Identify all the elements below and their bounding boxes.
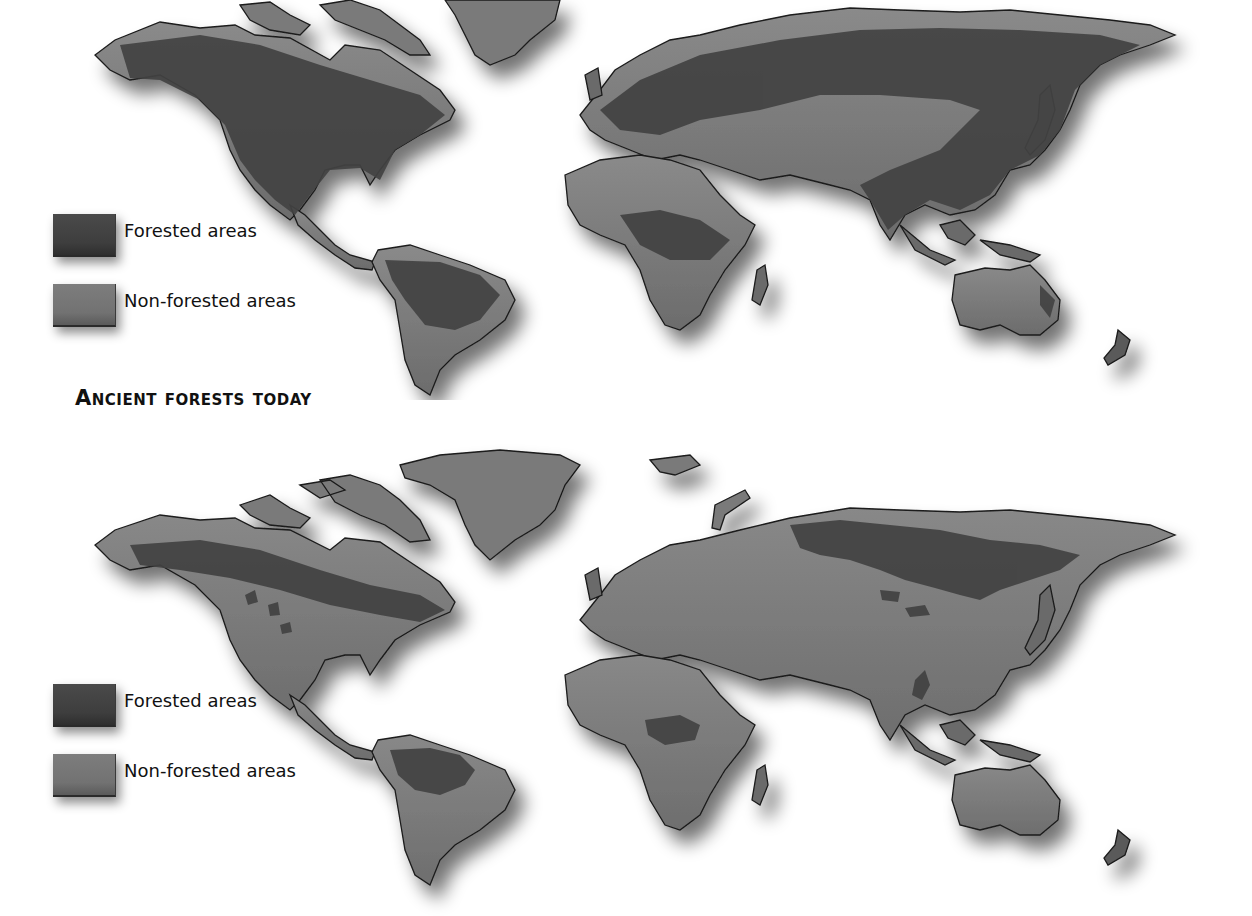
forested-swatch (53, 684, 116, 727)
africa (565, 655, 755, 830)
forested-swatch (53, 214, 116, 257)
greenland (445, 0, 560, 65)
world-map-today (0, 430, 1252, 916)
british-isles (585, 68, 602, 100)
section-title-ancient-forests-today: Ancient forests today (75, 386, 312, 410)
southeast-asia-islands (900, 220, 1040, 265)
legend-label-non-forested: Non-forested areas (124, 290, 296, 311)
svalbard (650, 455, 700, 475)
world-map-past (0, 0, 1252, 400)
non-forested-swatch (53, 754, 116, 797)
australia (952, 765, 1060, 835)
southeast-asia-islands (900, 720, 1040, 765)
new-zealand (1104, 830, 1130, 865)
british-isles (585, 568, 602, 600)
madagascar (752, 765, 768, 805)
novaya-zemlya (712, 490, 750, 530)
greenland (400, 450, 580, 560)
central-america (290, 695, 375, 760)
madagascar (752, 265, 768, 305)
new-zealand (1104, 330, 1130, 365)
central-america (290, 205, 375, 270)
non-forested-swatch (53, 284, 116, 327)
map-ancient-forests-today: Forested areas Non-forested areas (0, 430, 1252, 916)
legend-label-forested: Forested areas (124, 690, 257, 711)
map-original-forest-cover: Forested areas Non-forested areas (0, 0, 1252, 400)
legend-label-forested: Forested areas (124, 220, 257, 241)
legend-label-non-forested: Non-forested areas (124, 760, 296, 781)
